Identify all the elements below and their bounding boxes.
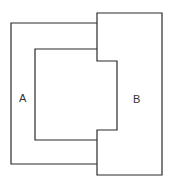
shape-b	[97, 13, 162, 175]
label-b: B	[133, 93, 140, 105]
label-a: A	[19, 92, 27, 104]
diagram-canvas: A B	[0, 0, 171, 190]
shape-a-inner	[35, 49, 97, 140]
